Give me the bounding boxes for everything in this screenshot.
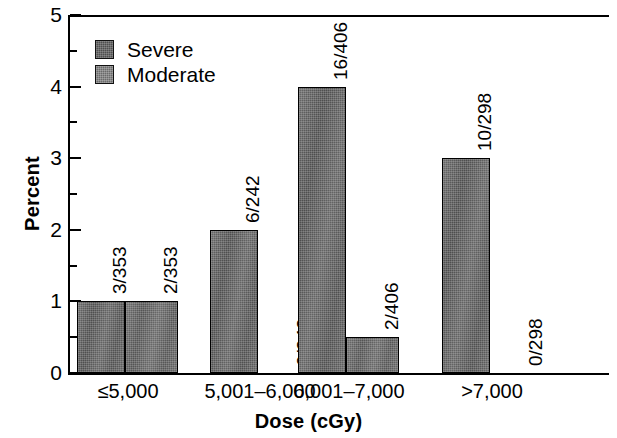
y-tick-major: [70, 229, 81, 231]
y-tick-minor: [70, 193, 77, 195]
y-tick-minor: [70, 121, 77, 123]
legend-item-severe: Severe: [95, 37, 285, 62]
plot-top-border: [68, 15, 609, 17]
bar-severe-2: [298, 87, 346, 373]
bar-chart-figure: Percent 012345 3/3532/3536/2420/24216/40…: [0, 0, 617, 438]
y-tick-minor: [70, 50, 77, 52]
y-tick-major: [70, 14, 81, 16]
legend-item-moderate: Moderate: [95, 62, 285, 87]
y-tick-label: 5: [34, 4, 62, 25]
y-tick-minor: [70, 336, 77, 338]
y-tick-minor: [70, 265, 77, 267]
y-tick-label: 0: [34, 362, 62, 383]
x-axis-title: Dose (cGy): [0, 410, 617, 433]
y-tick-major: [70, 157, 81, 159]
legend-swatch-moderate: [95, 65, 114, 84]
legend-label: Moderate: [127, 64, 216, 85]
y-tick-label: 3: [34, 147, 62, 168]
bar-value-label: 16/406: [331, 21, 350, 79]
bar-moderate-0: [125, 301, 178, 373]
chart-legend: SevereModerate: [95, 37, 285, 87]
bar-value-label: 10/298: [475, 93, 494, 151]
bar-severe-0: [77, 301, 125, 373]
x-tick-label-3: >7,000: [392, 381, 592, 401]
bar-severe-3: [442, 158, 490, 373]
bar-moderate-2: [346, 337, 399, 373]
y-axis-line: [68, 15, 70, 375]
bar-value-label: 2/406: [382, 283, 401, 331]
y-tick-label: 4: [34, 76, 62, 97]
bar-value-label: 6/242: [243, 175, 262, 223]
legend-label: Severe: [127, 39, 194, 60]
bar-value-label: 0/298: [526, 318, 545, 366]
bar-value-label: 2/353: [161, 247, 180, 295]
x-axis-line: [68, 373, 609, 375]
bar-value-label: 3/353: [110, 247, 129, 295]
y-axis-tick-labels: 012345: [20, 0, 62, 438]
bar-severe-1: [210, 230, 258, 373]
legend-swatch-severe: [95, 40, 114, 59]
y-tick-label: 2: [34, 219, 62, 240]
y-tick-major: [70, 86, 81, 88]
y-tick-label: 1: [34, 290, 62, 311]
